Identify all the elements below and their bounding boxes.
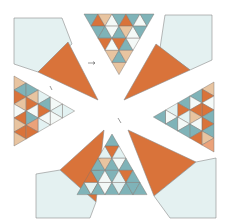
arrow-mark-icon xyxy=(118,118,121,123)
quilt-triangle-patch xyxy=(62,104,74,118)
quilt-triangle-patch xyxy=(112,62,126,74)
quilt-triangle-patch xyxy=(153,110,165,124)
right-triangle-grid xyxy=(153,82,214,152)
quilt-block-illustration xyxy=(0,0,228,224)
arrow-mark-icon xyxy=(50,86,52,90)
arrow-mark-icon xyxy=(88,62,95,65)
quilt-diagram xyxy=(0,0,228,224)
quilt-triangle-patch xyxy=(105,134,119,146)
left-triangle-grid xyxy=(14,76,75,146)
